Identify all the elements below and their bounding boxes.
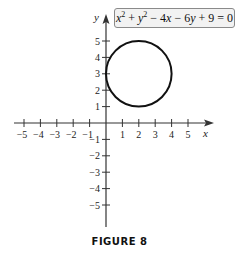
svg-text:3: 3 <box>95 68 100 79</box>
svg-text:3: 3 <box>153 129 158 140</box>
svg-text:−2: −2 <box>66 129 77 140</box>
svg-text:5: 5 <box>95 36 100 47</box>
x-tick-labels: −5 −4 −3 −2 −1 1 2 3 4 5 <box>17 129 191 140</box>
equation-label: x2 + y2 − 4x − 6y + 9 = 0 <box>114 8 235 28</box>
svg-text:−2: −2 <box>89 150 100 161</box>
svg-text:−3: −3 <box>89 167 100 178</box>
svg-text:1: 1 <box>120 129 125 140</box>
svg-text:2: 2 <box>95 85 100 96</box>
svg-text:4: 4 <box>169 129 174 140</box>
figure-caption: FIGURE 8 <box>0 236 239 247</box>
svg-text:5: 5 <box>186 129 191 140</box>
svg-text:−4: −4 <box>33 129 44 140</box>
svg-text:−3: −3 <box>49 129 60 140</box>
svg-text:4: 4 <box>95 52 100 63</box>
svg-text:1: 1 <box>95 101 100 112</box>
svg-text:−4: −4 <box>89 183 100 194</box>
svg-text:−5: −5 <box>17 129 28 140</box>
svg-text:2: 2 <box>136 129 141 140</box>
y-axis-label: y <box>93 11 99 23</box>
coordinate-plane: −5 −4 −3 −2 −1 1 2 3 4 5 x 5 4 3 2 1 −1 … <box>0 0 239 255</box>
circle-graph <box>106 41 172 107</box>
svg-text:−5: −5 <box>89 200 100 211</box>
x-axis-label: x <box>202 127 208 139</box>
svg-text:−1: −1 <box>89 134 100 145</box>
